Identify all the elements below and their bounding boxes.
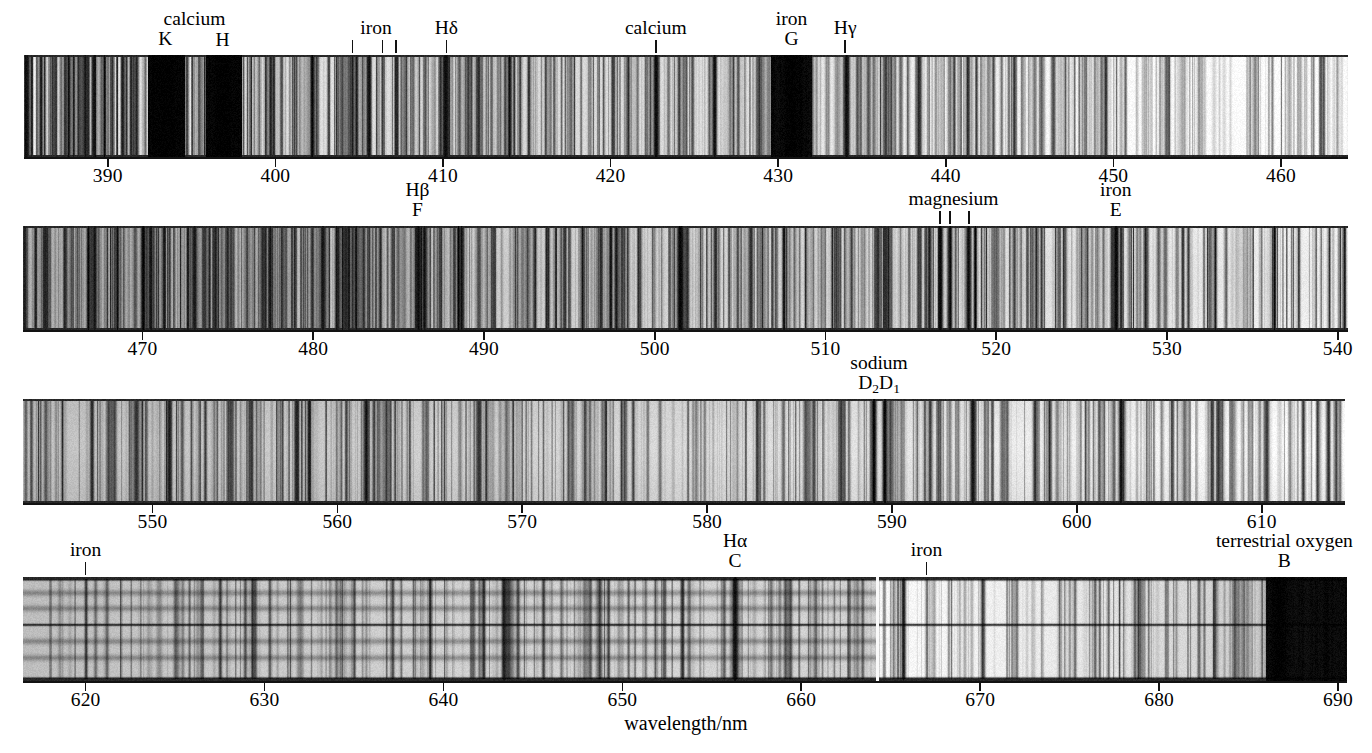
annotation-fraunhofer-symbol: Hβ	[405, 180, 429, 200]
spectrum-strip-3	[23, 399, 1345, 503]
spectral-line-annotation: iron	[70, 540, 101, 560]
annotation-leader-tick	[446, 40, 448, 53]
annotation-fraunhofer-symbol: C	[723, 551, 747, 571]
x-tick-label: 570	[507, 512, 537, 532]
x-tick-label: 560	[322, 512, 352, 532]
annotation-fraunhofer-symbol: H	[216, 30, 230, 50]
annotation-leader-tick	[382, 40, 384, 53]
annotation-fraunhofer-symbol: D2D1	[850, 373, 907, 393]
annotation-leader-tick	[352, 40, 354, 53]
axis-line-strip-4	[23, 681, 1347, 683]
spectral-line-annotation: iron	[911, 540, 942, 560]
spectral-line-annotation: magnesium	[909, 189, 999, 209]
spectral-line-annotation: calcium	[625, 18, 687, 38]
x-tick-label: 660	[786, 690, 816, 710]
x-tick-label: 580	[692, 512, 722, 532]
spectral-line-annotation: ironE	[1100, 180, 1131, 220]
spectrum-strip-4	[23, 577, 1347, 681]
annotation-leader-tick	[655, 40, 657, 53]
spectral-line-annotation: ironG	[776, 9, 807, 49]
annotation-element-name: sodium	[850, 353, 907, 373]
x-tick-label: 480	[298, 339, 328, 359]
x-tick-label: 510	[811, 339, 841, 359]
annotation-element-name: iron	[70, 540, 101, 560]
spectrum-strip-canvas-1	[24, 55, 1348, 157]
spectrum-strip-canvas-2	[23, 226, 1348, 330]
axis-line-strip-2	[23, 330, 1348, 332]
x-axis-title: wavelength/nm	[624, 712, 747, 735]
axis-line-strip-3	[23, 503, 1345, 505]
x-tick-label: 460	[1266, 166, 1296, 186]
x-tick-label: 470	[128, 339, 158, 359]
annotation-element-name: magnesium	[909, 189, 999, 209]
spectral-line-annotation: HαC	[723, 531, 747, 571]
x-tick-label: 630	[250, 690, 280, 710]
annotation-element-name: iron	[776, 9, 807, 29]
x-tick-label: 690	[1323, 690, 1353, 710]
x-tick-label: 530	[1152, 339, 1182, 359]
annotation-fraunhofer-symbol: B	[1216, 551, 1353, 571]
annotation-leader-tick	[939, 211, 941, 224]
annotation-fraunhofer-symbol: G	[776, 29, 807, 49]
spectral-line-annotation: iron	[360, 18, 391, 38]
x-tick-label: 490	[469, 339, 499, 359]
annotation-leader-tick	[85, 562, 87, 575]
annotation-leader-tick	[926, 562, 928, 575]
annotation-element-name: terrestrial oxygen	[1216, 531, 1353, 551]
annotation-fraunhofer-symbol: F	[405, 200, 429, 220]
spectral-line-annotation: sodiumD2D1	[850, 353, 907, 393]
annotation-leader-tick	[395, 40, 397, 53]
annotation-leader-tick	[949, 211, 951, 224]
x-tick-label: 500	[640, 339, 670, 359]
x-tick-label: 430	[763, 166, 793, 186]
annotation-leader-tick	[968, 211, 970, 224]
annotation-element-name: calcium	[625, 18, 687, 38]
spectrum-strip-canvas-3	[23, 399, 1345, 503]
spectral-line-annotation: Hγ	[834, 18, 857, 38]
annotation-fraunhofer-symbol: E	[1100, 200, 1131, 220]
x-tick-label: 680	[1144, 690, 1174, 710]
x-tick-label: 610	[1247, 512, 1277, 532]
x-tick-label: 520	[981, 339, 1011, 359]
spectral-line-annotation: H	[216, 30, 230, 50]
x-tick-label: 590	[877, 512, 907, 532]
annotation-element-name: iron	[360, 18, 391, 38]
annotation-fraunhofer-symbol: Hδ	[435, 18, 458, 38]
x-tick-label: 650	[607, 690, 637, 710]
annotation-element-name: iron	[1100, 180, 1131, 200]
annotation-fraunhofer-symbol: Hα	[723, 531, 747, 551]
spectral-line-annotation: HβF	[405, 180, 429, 220]
x-tick-label: 420	[596, 166, 626, 186]
solar-spectrum-figure: 390400410420430440450460calciumKHironHδc…	[0, 0, 1372, 753]
spectrum-strip-1	[24, 55, 1348, 157]
axis-line-strip-1	[24, 157, 1348, 159]
x-tick-label: 640	[429, 690, 459, 710]
x-tick-label: 670	[965, 690, 995, 710]
x-tick-label: 390	[93, 166, 123, 186]
x-tick-label: 540	[1323, 339, 1353, 359]
spectral-line-annotation: terrestrial oxygenB	[1216, 531, 1353, 571]
x-tick-label: 410	[428, 166, 458, 186]
spectrum-strip-2	[23, 226, 1348, 330]
annotation-element-name: calcium	[164, 9, 226, 29]
x-tick-label: 440	[931, 166, 961, 186]
annotation-fraunhofer-symbol: Hγ	[834, 18, 857, 38]
annotation-leader-tick	[844, 40, 846, 53]
x-tick-label: 400	[260, 166, 290, 186]
spectrum-strip-canvas-4	[23, 577, 1347, 681]
annotation-element-name: iron	[911, 540, 942, 560]
annotation-fraunhofer-symbol: K	[134, 29, 196, 49]
x-tick-label: 600	[1062, 512, 1092, 532]
x-tick-label: 620	[71, 690, 101, 710]
spectral-line-annotation: Hδ	[435, 18, 458, 38]
x-tick-label: 550	[137, 512, 167, 532]
